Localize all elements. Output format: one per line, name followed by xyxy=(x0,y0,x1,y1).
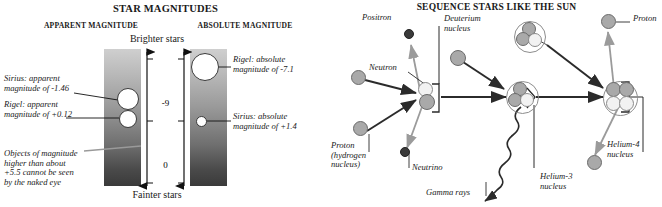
helium4-neutron-2 xyxy=(619,96,634,111)
proton-stage2-incoming xyxy=(450,50,466,66)
label-line: nucleus xyxy=(444,24,481,34)
rigel-absolute-star-circle xyxy=(191,53,219,81)
star-magnitudes-panel: STAR MAGNITUDES APPARENT MAGNITUDE ABSOL… xyxy=(0,0,331,207)
positron-particle xyxy=(404,29,414,39)
sirius-absolute-star-circle xyxy=(196,116,207,127)
helium4-proton-2 xyxy=(619,82,634,97)
annotation-line: magnitude of +0.12 xyxy=(4,110,72,120)
annotation-line: by the naked eye xyxy=(4,178,78,188)
helium3-label: Helium-3 nucleus xyxy=(540,172,572,191)
sirius-apparent-annotation: Sirius: apparent magnitude of -1.46 xyxy=(4,74,69,93)
fusion-sequence-panel: SEQUENCE STARS LIKE THE SUN xyxy=(331,0,662,207)
label-line: nucleus xyxy=(607,150,639,160)
proton-incoming-upper xyxy=(351,70,366,85)
proton-top-right-label: Proton xyxy=(633,14,657,24)
neutron-label: Neutron xyxy=(369,63,397,73)
positron-label: Positron xyxy=(362,13,391,23)
deuterium-label: Deuterium nucleus xyxy=(444,14,481,33)
helium3-second-neutron xyxy=(528,33,542,47)
helium4-label: Helium-4 nucleus xyxy=(607,140,639,159)
annotation-line: magnitude of -1.46 xyxy=(4,84,69,94)
neutrino-label: Neutrino xyxy=(412,163,443,173)
label-line: nucleus xyxy=(540,182,572,192)
proton-ejected-down xyxy=(587,155,602,170)
annotation-line: magnitude of +1.4 xyxy=(233,122,297,132)
figure-canvas: STAR MAGNITUDES APPARENT MAGNITUDE ABSOL… xyxy=(0,0,662,207)
gamma-rays-label: Gamma rays xyxy=(426,188,470,198)
rigel-apparent-annotation: Rigel: apparent magnitude of +0.12 xyxy=(4,100,72,119)
proton-incoming-lower xyxy=(353,121,368,136)
sirius-absolute-annotation: Sirius: absolute magnitude of +1.4 xyxy=(233,112,297,131)
proton-hydrogen-label: Proton (hydrogen nucleus) xyxy=(331,141,366,170)
neutrino-particle xyxy=(400,147,410,157)
naked-eye-limit-annotation: Objects of magnitude higher than about +… xyxy=(4,149,78,188)
sirius-apparent-star-circle xyxy=(117,88,139,110)
deuterium-proton xyxy=(419,94,435,110)
rigel-apparent-star-circle xyxy=(119,110,137,128)
label-line: nucleus) xyxy=(331,160,366,170)
helium3-neutron xyxy=(520,93,534,107)
annotation-line: magnitude of -7.1 xyxy=(233,65,294,75)
proton-ejected-up xyxy=(601,14,616,29)
rigel-absolute-annotation: Rigel: absolute magnitude of -7.1 xyxy=(233,55,294,74)
